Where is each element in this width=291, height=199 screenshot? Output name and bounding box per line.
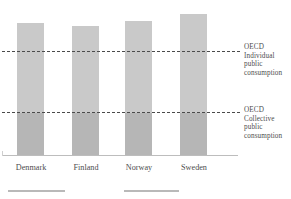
reference-label-individual-line4: consumption [244, 69, 291, 78]
x-axis-line [2, 155, 238, 156]
reference-label-individual-line2: Individual [244, 52, 291, 61]
reference-label-collective: OECD Collective public consumption [244, 106, 291, 140]
bar-denmark [17, 23, 44, 156]
bar-finland [72, 26, 99, 156]
bar-norway-collective-segment [125, 113, 152, 156]
bar-sweden [180, 14, 207, 156]
category-label-sweden: Sweden [171, 163, 217, 172]
reference-label-individual-line3: public [244, 60, 291, 69]
bottom-rule-left [8, 190, 65, 192]
reference-label-collective-line3: public [244, 123, 291, 132]
reference-label-individual-line1: OECD [244, 43, 291, 52]
bar-chart: OECD Individual public consumption OECD … [0, 0, 291, 199]
bar-denmark-collective-segment [17, 113, 44, 156]
category-label-finland: Finland [64, 163, 108, 172]
bar-sweden-collective-segment [180, 113, 207, 156]
bar-norway [125, 21, 152, 156]
reference-label-collective-line1: OECD [244, 106, 291, 115]
reference-line-individual [2, 51, 240, 52]
bar-finland-collective-segment [72, 113, 99, 156]
bottom-rule-right [124, 190, 179, 192]
reference-label-individual: OECD Individual public consumption [244, 43, 291, 77]
reference-label-collective-line4: consumption [244, 132, 291, 141]
category-label-norway: Norway [117, 163, 161, 172]
category-label-denmark: Denmark [8, 163, 54, 172]
reference-label-collective-line2: Collective [244, 115, 291, 124]
reference-line-collective [2, 112, 240, 113]
y-axis-origin-tick [2, 151, 3, 156]
